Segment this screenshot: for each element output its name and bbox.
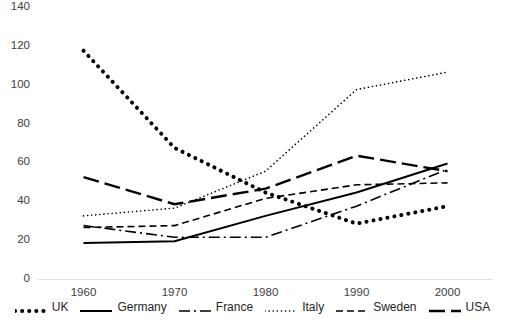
- y-tick-label: 20: [0, 233, 30, 245]
- x-tick-label: 1970: [145, 286, 205, 298]
- legend-item-sweden[interactable]: Sweden: [336, 300, 416, 314]
- series-line-uk: [84, 51, 448, 224]
- y-tick-label: 120: [0, 39, 30, 51]
- plot-area: [38, 8, 493, 280]
- y-tick-label: 60: [0, 155, 30, 167]
- y-tick-label: 100: [0, 78, 30, 90]
- legend-swatch-icon: [179, 302, 211, 312]
- legend-swatch-icon: [80, 302, 112, 312]
- legend-swatch-icon: [265, 302, 297, 312]
- legend-item-usa[interactable]: USA: [429, 300, 491, 314]
- chart-legend: UKGermanyFranceItalySwedenUSA: [0, 300, 505, 314]
- legend-label: France: [216, 300, 253, 314]
- legend-label: Germany: [117, 300, 166, 314]
- series-group: [84, 51, 448, 243]
- legend-label: USA: [466, 300, 491, 314]
- x-tick-label: 1990: [327, 286, 387, 298]
- legend-item-italy[interactable]: Italy: [265, 300, 324, 314]
- x-tick-label: 2000: [418, 286, 478, 298]
- series-line-germany: [84, 163, 448, 243]
- line-chart: 020406080100120140 19601970198019902000 …: [0, 0, 505, 332]
- y-tick-label: 80: [0, 117, 30, 129]
- legend-item-france[interactable]: France: [179, 300, 253, 314]
- legend-label: Sweden: [373, 300, 416, 314]
- legend-swatch-icon: [15, 302, 47, 312]
- x-tick-label: 1980: [236, 286, 296, 298]
- x-tick-label: 1960: [54, 286, 114, 298]
- series-line-france: [84, 169, 448, 237]
- legend-swatch-icon: [429, 302, 461, 312]
- legend-item-uk[interactable]: UK: [15, 300, 69, 314]
- y-tick-label: 40: [0, 194, 30, 206]
- y-tick-label: 140: [0, 0, 30, 12]
- legend-label: UK: [52, 300, 69, 314]
- legend-swatch-icon: [336, 302, 368, 312]
- legend-label: Italy: [302, 300, 324, 314]
- y-tick-label: 0: [0, 272, 30, 284]
- chart-canvas: [38, 8, 493, 280]
- legend-item-germany[interactable]: Germany: [80, 300, 166, 314]
